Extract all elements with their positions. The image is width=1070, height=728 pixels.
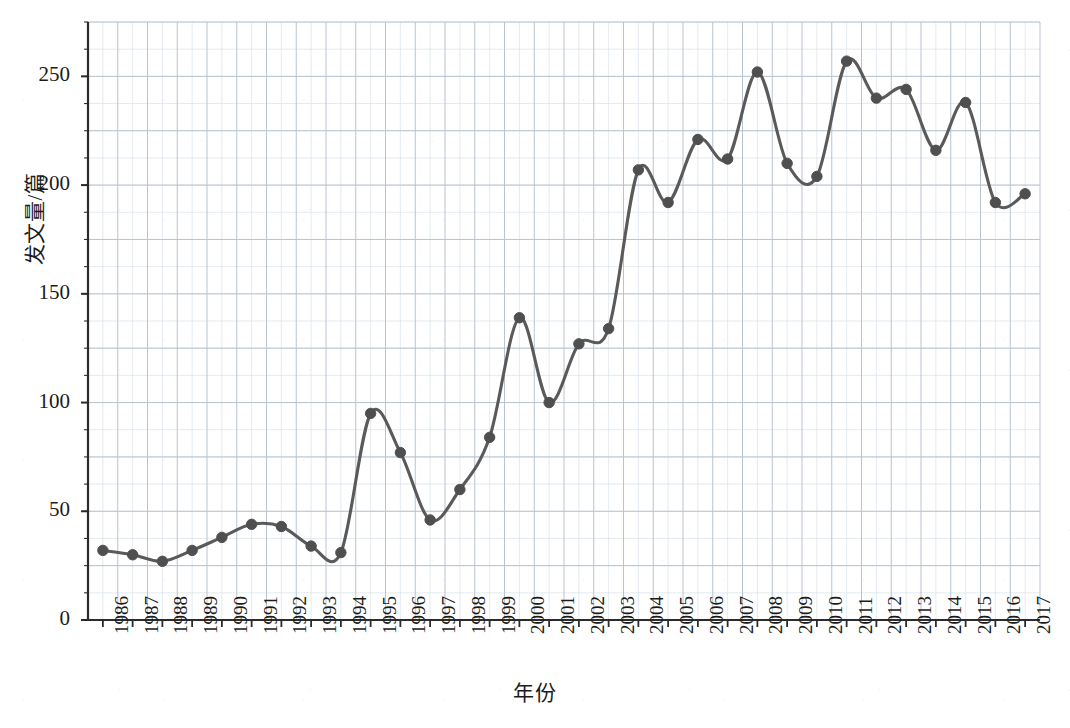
x-tick-label-2017: 2017	[1033, 596, 1055, 634]
data-point-1987	[127, 550, 137, 560]
y-tick-label-250: 250	[10, 62, 70, 87]
data-point-1997	[425, 515, 435, 525]
data-point-2007	[722, 154, 732, 164]
x-axis-title: 年份	[0, 676, 1070, 706]
data-point-2014	[931, 145, 941, 155]
x-tick-label-1998: 1998	[468, 596, 490, 634]
x-tick-label-2009: 2009	[795, 596, 817, 634]
x-tick-label-1999: 1999	[498, 596, 520, 634]
x-tick-label-2014: 2014	[944, 596, 966, 634]
data-point-2009	[782, 158, 792, 168]
x-tick-label-2006: 2006	[706, 596, 728, 634]
data-point-2015	[960, 97, 970, 107]
x-tick-label-1997: 1997	[438, 596, 460, 634]
y-tick-label-150: 150	[10, 280, 70, 305]
data-point-1986	[98, 545, 108, 555]
x-tick-label-1988: 1988	[170, 596, 192, 634]
x-tick-label-2016: 2016	[1003, 596, 1025, 634]
x-tick-label-2011: 2011	[855, 597, 877, 634]
x-tick-label-2008: 2008	[765, 596, 787, 634]
data-point-2016	[990, 197, 1000, 207]
x-tick-label-2015: 2015	[974, 596, 996, 634]
data-point-2006	[693, 134, 703, 144]
x-tick-label-1992: 1992	[289, 596, 311, 634]
data-point-2002	[574, 339, 584, 349]
data-point-2001	[544, 397, 554, 407]
data-point-1990	[217, 532, 227, 542]
x-tick-label-1995: 1995	[379, 596, 401, 634]
y-tick-label-200: 200	[10, 171, 70, 196]
data-point-1995	[365, 408, 375, 418]
y-tick-label-0: 0	[10, 606, 70, 631]
x-tick-label-1991: 1991	[260, 596, 282, 634]
data-point-2008	[752, 67, 762, 77]
data-point-1988	[157, 556, 167, 566]
x-tick-label-1986: 1986	[111, 596, 133, 634]
data-point-2013	[901, 84, 911, 94]
x-tick-label-2007: 2007	[736, 596, 758, 634]
x-tick-label-2010: 2010	[825, 596, 847, 634]
x-tick-label-2012: 2012	[884, 596, 906, 634]
data-point-1989	[187, 545, 197, 555]
data-point-2003	[603, 323, 613, 333]
x-tick-label-2005: 2005	[676, 596, 698, 634]
data-point-2017	[1020, 189, 1030, 199]
x-tick-label-1994: 1994	[349, 596, 371, 634]
data-point-1991	[246, 519, 256, 529]
x-tick-label-2003: 2003	[617, 596, 639, 634]
y-axis-title: 发文量/篇	[18, 145, 48, 265]
x-tick-label-1993: 1993	[319, 596, 341, 634]
data-point-2011	[841, 56, 851, 66]
data-point-1999	[484, 432, 494, 442]
data-point-1992	[276, 521, 286, 531]
data-point-2000	[514, 313, 524, 323]
x-tick-label-2002: 2002	[587, 596, 609, 634]
data-point-2004	[633, 165, 643, 175]
x-tick-label-2004: 2004	[646, 596, 668, 634]
x-tick-label-2000: 2000	[527, 596, 549, 634]
data-point-2010	[812, 171, 822, 181]
x-tick-label-1987: 1987	[141, 596, 163, 634]
x-tick-label-2001: 2001	[557, 596, 579, 634]
data-point-1996	[395, 447, 405, 457]
data-point-1994	[336, 547, 346, 557]
data-point-1998	[455, 484, 465, 494]
x-tick-label-2013: 2013	[914, 596, 936, 634]
x-tick-label-1996: 1996	[408, 596, 430, 634]
y-tick-label-50: 50	[10, 497, 70, 522]
y-tick-label-100: 100	[10, 389, 70, 414]
data-point-2012	[871, 93, 881, 103]
x-tick-label-1989: 1989	[200, 596, 222, 634]
data-point-2005	[663, 197, 673, 207]
x-tick-label-1990: 1990	[230, 596, 252, 634]
data-point-1993	[306, 541, 316, 551]
